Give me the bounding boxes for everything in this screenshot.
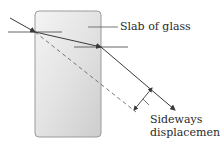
incident-ray <box>10 18 35 32</box>
displacement-arrow <box>143 88 152 99</box>
displacement-arrow <box>134 99 143 110</box>
sideways-displacement-label-line1: Sideways <box>150 114 202 125</box>
slab-of-glass-label: Slab of glass <box>120 21 191 32</box>
emergent-ray <box>101 47 175 110</box>
sideways-displacement-label-line2: displacement <box>150 127 220 138</box>
displacement-label-leader <box>143 99 149 105</box>
glass-slab <box>35 11 101 137</box>
